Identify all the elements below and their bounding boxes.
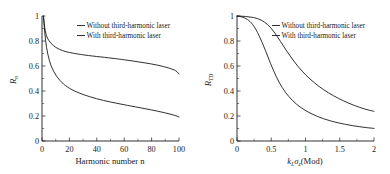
left-plot-area: 0 0.2 0.4 0.6 0.8 1 0 20 40 60 80 100: [8, 12, 185, 166]
right-yaxis-title-sub: TD: [208, 74, 214, 81]
right-yticklabel-1: 0.2: [224, 112, 234, 121]
left-xticklabel-5: 100: [173, 145, 185, 154]
right-xticklabel-2: 1: [303, 145, 307, 154]
right-yticklabel-5: 1: [230, 12, 234, 21]
right-legend: Without third-harmonic laser With third-…: [272, 22, 366, 40]
left-legend-label-0: Without third-harmonic laser: [87, 22, 171, 30]
left-y-ticklabels: 0 0.2 0.4 0.6 0.8 1: [29, 12, 39, 146]
right-curve-without-third-harmonic: [237, 16, 374, 111]
left-xticklabel-2: 40: [93, 145, 101, 154]
left-yticklabel-5: 1: [35, 12, 39, 21]
left-yticklabel-3: 0.6: [29, 62, 39, 71]
left-yticklabel-2: 0.4: [29, 87, 39, 96]
left-xticklabel-1: 20: [65, 145, 73, 154]
right-x-ticks: [237, 138, 374, 142]
chart-panel-right: 0 0.2 0.4 0.6 0.8 1 0 0.5 1 1.5 2: [195, 0, 390, 174]
right-yticklabel-4: 0.8: [224, 37, 234, 46]
left-xaxis-title-text: Harmonic number n: [75, 156, 145, 166]
right-x-ticklabels: 0 0.5 1 1.5 2: [235, 145, 376, 154]
svg-text:Rn: Rn: [8, 76, 19, 85]
left-xaxis-title: Harmonic number n: [75, 156, 145, 166]
right-yticklabel-0: 0: [230, 137, 234, 146]
left-xticklabel-0: 0: [40, 145, 44, 154]
right-yticklabel-2: 0.4: [224, 87, 234, 96]
right-y-ticks: [237, 16, 241, 141]
figure-two-panel-line-charts: 0 0.2 0.4 0.6 0.8 1 0 20 40 60 80 100: [0, 0, 390, 174]
left-legend-label-1: With third-harmonic laser: [87, 32, 162, 40]
right-xaxis-title: kLσz(Mod): [287, 156, 322, 167]
right-y-ticklabels: 0 0.2 0.4 0.6 0.8 1: [224, 12, 234, 146]
left-xticklabel-3: 60: [120, 145, 128, 154]
right-xticklabel-4: 2: [372, 145, 376, 154]
left-xticklabel-4: 80: [148, 145, 156, 154]
left-legend: Without third-harmonic laser With third-…: [77, 22, 171, 40]
right-xticklabel-1: 0.5: [266, 145, 276, 154]
right-xticklabel-3: 1.5: [335, 145, 345, 154]
right-legend-label-1: With third-harmonic laser: [282, 32, 357, 40]
left-yticklabel-4: 0.8: [29, 37, 39, 46]
left-yticklabel-1: 0.2: [29, 112, 39, 121]
svg-text:RTD: RTD: [203, 74, 214, 87]
right-xaxis-suffix: (Mod): [301, 156, 323, 166]
left-x-ticks: [42, 138, 179, 142]
right-yticklabel-3: 0.6: [224, 62, 234, 71]
left-yticklabel-0: 0: [35, 137, 39, 146]
left-yaxis-title: Rn: [8, 76, 19, 85]
left-x-ticklabels: 0 20 40 60 80 100: [40, 145, 185, 154]
right-yaxis-title: RTD: [203, 74, 214, 87]
chart-panel-left: 0 0.2 0.4 0.6 0.8 1 0 20 40 60 80 100: [0, 0, 195, 174]
right-plot-area: 0 0.2 0.4 0.6 0.8 1 0 0.5 1 1.5 2: [203, 12, 376, 167]
right-xticklabel-0: 0: [235, 145, 239, 154]
left-yaxis-title-sub: n: [13, 76, 19, 79]
right-legend-label-0: Without third-harmonic laser: [282, 22, 366, 30]
